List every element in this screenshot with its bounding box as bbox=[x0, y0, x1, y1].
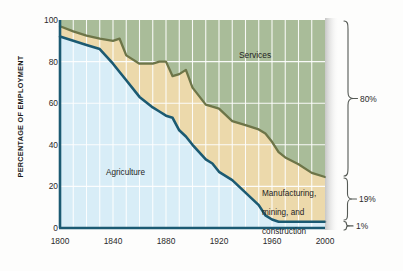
y-tick-0: 0 bbox=[36, 223, 58, 233]
agriculture-label: Agriculture bbox=[106, 168, 145, 177]
y-tick-80: 80 bbox=[36, 57, 58, 67]
y-tick-20: 20 bbox=[36, 181, 58, 191]
x-tick-2000: 2000 bbox=[316, 236, 335, 246]
right-label-1: 1% bbox=[356, 221, 368, 231]
right-bracket-group bbox=[344, 21, 358, 230]
x-tick-1920: 1920 bbox=[210, 236, 229, 246]
bracket-1 bbox=[344, 222, 350, 231]
x-tick-1800: 1800 bbox=[51, 236, 70, 246]
employment-area-chart: PERCENTAGE OF EMPLOYMENT 100 80 60 40 20… bbox=[0, 0, 403, 271]
x-tick-1960: 1960 bbox=[263, 236, 282, 246]
x-tick-1840: 1840 bbox=[104, 236, 123, 246]
right-label-80: 80% bbox=[360, 94, 377, 104]
chart-root: PERCENTAGE OF EMPLOYMENT 100 80 60 40 20… bbox=[0, 0, 403, 271]
manufacturing-label-line2: mining, and bbox=[262, 208, 316, 217]
y-tick-60: 60 bbox=[36, 98, 58, 108]
y-axis-tick-labels: 100 80 60 40 20 0 bbox=[34, 0, 58, 271]
services-label: Services bbox=[239, 51, 271, 60]
y-tick-40: 40 bbox=[36, 140, 58, 150]
chart-canvas bbox=[0, 0, 403, 271]
manufacturing-label-line1: Manufacturing, bbox=[262, 189, 316, 198]
x-tick-1880: 1880 bbox=[157, 236, 176, 246]
page-edge-shading bbox=[325, 18, 339, 230]
right-label-19: 19% bbox=[359, 194, 376, 204]
y-tick-100: 100 bbox=[36, 15, 58, 25]
bracket-19 bbox=[344, 178, 352, 220]
y-axis-title: PERCENTAGE OF EMPLOYMENT bbox=[16, 27, 25, 207]
bracket-80 bbox=[344, 21, 353, 176]
